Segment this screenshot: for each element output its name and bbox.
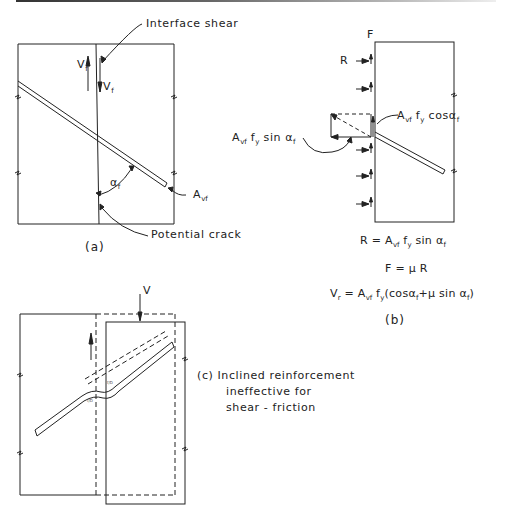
sin-component-A: A xyxy=(232,131,240,144)
eq3-V: V xyxy=(330,287,338,300)
alpha-subscript: f xyxy=(118,183,120,191)
avf-symbol: A xyxy=(193,188,201,201)
normal-reaction-label: R xyxy=(340,54,348,67)
equation-r: R = Avf fy sin αf xyxy=(360,234,446,249)
potential-crack-label: Potential crack xyxy=(151,228,241,241)
sin-component-alpha-sub: f xyxy=(293,138,295,146)
vf-left-label: Vf xyxy=(77,58,88,73)
cos-component-cos: cosα xyxy=(424,109,456,122)
panel-b-caption: (b) xyxy=(385,313,405,327)
eq3-close: ) xyxy=(470,287,475,300)
cos-component-alpha-sub: f xyxy=(457,116,459,124)
panel-a-caption: (a) xyxy=(85,240,105,254)
friction-force-label: F xyxy=(367,28,374,41)
sin-component-sin: sin α xyxy=(259,131,293,144)
sin-component-A-sub: vf xyxy=(240,138,247,146)
vf-right-label: Vf xyxy=(103,80,114,95)
eq3-cos: (cosα xyxy=(384,287,416,300)
alpha-symbol: α xyxy=(110,176,118,189)
cos-component-A: A xyxy=(397,109,405,122)
eq1-sin: sin α xyxy=(412,234,444,247)
sin-component-label: Avf fy sin αf xyxy=(232,131,296,146)
vf-left-symbol: V xyxy=(77,58,85,71)
cos-component-label: Avf fy cosαf xyxy=(397,109,459,124)
panel-b-diagram xyxy=(303,42,457,222)
eq1-alpha-sub: f xyxy=(443,241,445,249)
bend-label-lower: f/D xyxy=(87,398,93,403)
figure-canvas xyxy=(0,0,507,516)
eq1-A-sub: vf xyxy=(393,241,400,249)
alpha-f-label: αf xyxy=(110,176,120,191)
eq3-eq-A: = A xyxy=(341,287,366,300)
bend-label-upper: f/D xyxy=(107,380,113,385)
v-load-label: V xyxy=(143,284,151,297)
vf-right-symbol: V xyxy=(103,80,111,93)
vf-right-subscript: f xyxy=(111,87,113,95)
panel-c-caption-line1: (c) Inclined reinforcement xyxy=(197,369,355,382)
equation-vr: Vr = Avf fy(cosαf+μ sin αf) xyxy=(330,287,474,302)
avf-label: Avf xyxy=(193,188,208,203)
eq1-lhs: R = xyxy=(360,234,385,247)
eq3-mu-sin: +μ sin α xyxy=(418,287,467,300)
interface-shear-label: Interface shear xyxy=(146,17,238,30)
cos-component-A-sub: vf xyxy=(405,116,412,124)
equation-f: F = μ R xyxy=(385,262,428,275)
panel-c-caption-line3: shear - friction xyxy=(226,401,316,414)
panel-c-caption-line2: ineffective for xyxy=(226,385,312,398)
panel-c-diagram xyxy=(17,294,188,504)
vf-left-subscript: f xyxy=(85,65,87,73)
panel-a-diagram xyxy=(15,24,186,236)
eq1-A: A xyxy=(385,234,393,247)
avf-subscript: vf xyxy=(201,195,208,203)
